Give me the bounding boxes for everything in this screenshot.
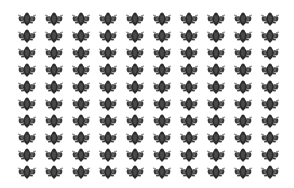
- beetle-glyph-icon: [151, 29, 173, 44]
- motif-tile: [232, 165, 254, 180]
- beetle-glyph-icon: [97, 97, 119, 112]
- motif-tile: [124, 114, 146, 129]
- motif-tile: [178, 148, 200, 163]
- beetle-glyph-icon: [178, 114, 200, 129]
- motif-tile: [178, 12, 200, 27]
- motif-tile: [205, 131, 227, 146]
- motif-tile: [232, 80, 254, 95]
- motif-tile: [232, 114, 254, 129]
- beetle-glyph-icon: [205, 97, 227, 112]
- beetle-glyph-icon: [70, 80, 92, 95]
- motif-tile: [151, 29, 173, 44]
- motif-tile: [232, 148, 254, 163]
- motif-tile: [259, 12, 281, 27]
- beetle-glyph-icon: [124, 165, 146, 180]
- motif-tile: [124, 63, 146, 78]
- beetle-glyph-icon: [178, 148, 200, 163]
- beetle-glyph-icon: [178, 80, 200, 95]
- motif-tile: [232, 63, 254, 78]
- motif-tile: [97, 80, 119, 95]
- motif-tile: [232, 29, 254, 44]
- beetle-glyph-icon: [124, 63, 146, 78]
- beetle-glyph-icon: [151, 80, 173, 95]
- beetle-glyph-icon: [124, 80, 146, 95]
- beetle-glyph-icon: [43, 114, 65, 129]
- motif-tile: [70, 97, 92, 112]
- motif-tile: [97, 114, 119, 129]
- motif-tile: [97, 29, 119, 44]
- motif-tile: [259, 148, 281, 163]
- motif-tile: [43, 131, 65, 146]
- motif-tile: [16, 131, 38, 146]
- beetle-glyph-icon: [16, 114, 38, 129]
- beetle-glyph-icon: [205, 165, 227, 180]
- beetle-glyph-icon: [43, 12, 65, 27]
- beetle-glyph-icon: [16, 165, 38, 180]
- beetle-glyph-icon: [232, 63, 254, 78]
- beetle-glyph-icon: [43, 131, 65, 146]
- motif-tile: [232, 97, 254, 112]
- motif-tile: [124, 29, 146, 44]
- motif-tile: [178, 80, 200, 95]
- beetle-glyph-icon: [97, 165, 119, 180]
- motif-tile: [70, 114, 92, 129]
- motif-tile: [151, 46, 173, 61]
- beetle-glyph-icon: [232, 97, 254, 112]
- beetle-glyph-icon: [178, 165, 200, 180]
- beetle-glyph-icon: [16, 80, 38, 95]
- beetle-glyph-icon: [16, 97, 38, 112]
- motif-tile: [259, 114, 281, 129]
- motif-tile: [124, 80, 146, 95]
- beetle-glyph-icon: [178, 131, 200, 146]
- motif-tile: [151, 165, 173, 180]
- motif-tile: [205, 29, 227, 44]
- motif-tile: [151, 63, 173, 78]
- motif-tile: [259, 97, 281, 112]
- beetle-glyph-icon: [97, 131, 119, 146]
- motif-tile: [124, 12, 146, 27]
- motif-tile: [259, 165, 281, 180]
- beetle-glyph-icon: [16, 46, 38, 61]
- beetle-glyph-icon: [259, 165, 281, 180]
- motif-tile: [70, 12, 92, 27]
- motif-tile: [16, 80, 38, 95]
- beetle-glyph-icon: [178, 97, 200, 112]
- beetle-glyph-icon: [43, 29, 65, 44]
- beetle-glyph-icon: [151, 97, 173, 112]
- motif-tile: [205, 97, 227, 112]
- motif-tile: [43, 12, 65, 27]
- motif-tile: [232, 12, 254, 27]
- motif-tile: [70, 46, 92, 61]
- motif-tile: [151, 97, 173, 112]
- beetle-glyph-icon: [151, 12, 173, 27]
- motif-tile: [70, 165, 92, 180]
- beetle-glyph-icon: [70, 148, 92, 163]
- beetle-glyph-icon: [232, 114, 254, 129]
- beetle-glyph-icon: [205, 80, 227, 95]
- beetle-glyph-icon: [97, 29, 119, 44]
- motif-tile: [97, 148, 119, 163]
- beetle-glyph-icon: [97, 80, 119, 95]
- beetle-glyph-icon: [205, 63, 227, 78]
- motif-tile: [151, 12, 173, 27]
- beetle-glyph-icon: [151, 63, 173, 78]
- beetle-glyph-icon: [16, 131, 38, 146]
- beetle-glyph-icon: [43, 63, 65, 78]
- beetle-glyph-icon: [205, 29, 227, 44]
- beetle-glyph-icon: [43, 165, 65, 180]
- beetle-glyph-icon: [97, 114, 119, 129]
- beetle-glyph-icon: [97, 46, 119, 61]
- motif-tile: [43, 46, 65, 61]
- beetle-glyph-icon: [16, 63, 38, 78]
- motif-tile: [97, 63, 119, 78]
- beetle-glyph-icon: [259, 148, 281, 163]
- beetle-glyph-icon: [232, 12, 254, 27]
- motif-tile: [259, 63, 281, 78]
- motif-tile: [205, 63, 227, 78]
- motif-tile: [43, 63, 65, 78]
- motif-tile: [205, 165, 227, 180]
- motif-tile: [178, 114, 200, 129]
- motif-tile: [151, 114, 173, 129]
- motif-tile: [97, 12, 119, 27]
- motif-tile: [124, 46, 146, 61]
